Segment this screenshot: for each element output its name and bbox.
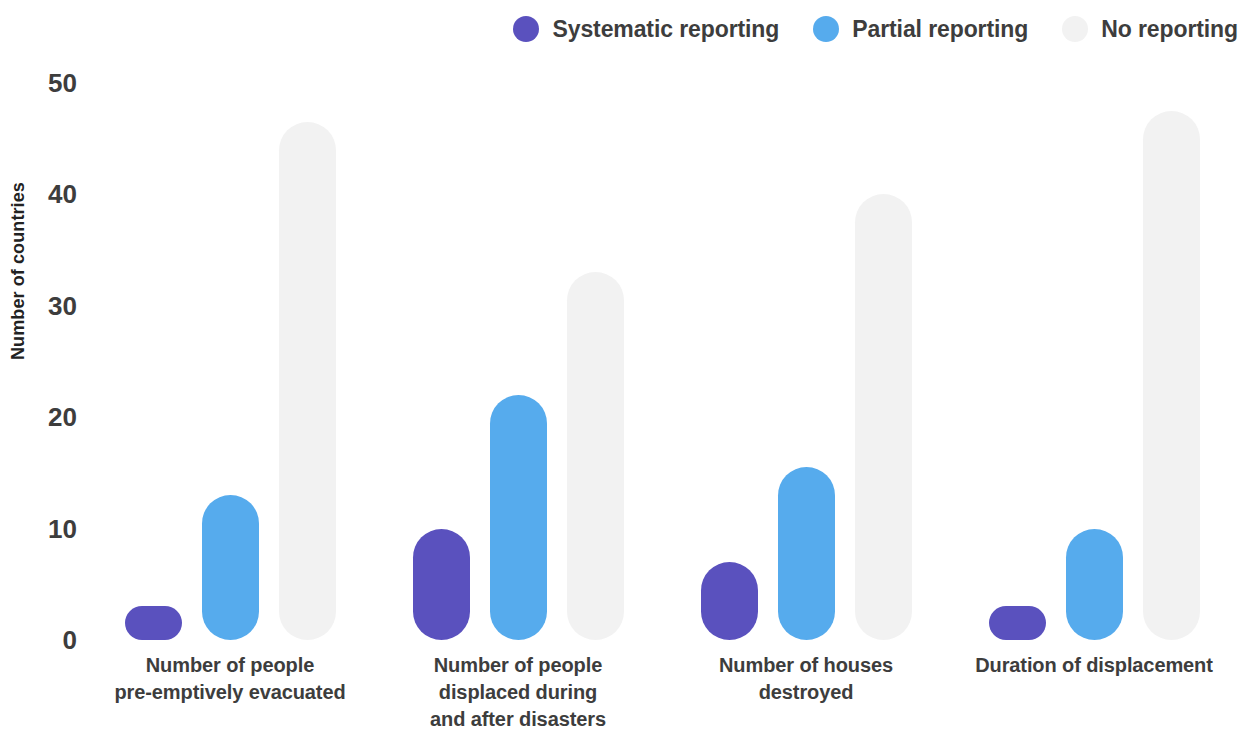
plot-area: 01020304050: [95, 83, 1235, 640]
legend-item-systematic-reporting[interactable]: Systematic reporting: [513, 16, 779, 43]
y-axis-title: Number of countries: [8, 182, 29, 360]
x-axis-category-label: Number of peoplepre-emptively evacuated: [80, 652, 380, 706]
y-axis-tick-label: 30: [48, 290, 77, 321]
y-axis-tick-label: 10: [48, 513, 77, 544]
bar-systematic[interactable]: [701, 562, 758, 640]
circle-swatch-icon: [1062, 16, 1088, 42]
legend-item-no-reporting[interactable]: No reporting: [1062, 16, 1238, 43]
x-axis-category-label: Duration of displacement: [944, 652, 1244, 679]
bar-systematic[interactable]: [413, 529, 470, 640]
bar-chart: Systematic reporting Partial reporting N…: [0, 0, 1244, 735]
y-axis-tick-label: 20: [48, 402, 77, 433]
legend-label: No reporting: [1101, 16, 1238, 43]
x-axis-category-line: displaced during: [368, 679, 668, 706]
legend-label: Systematic reporting: [552, 16, 779, 43]
y-axis-tick-label: 40: [48, 179, 77, 210]
x-axis-category-line: Number of people: [368, 652, 668, 679]
bar-group: [701, 83, 912, 640]
bar-partial[interactable]: [778, 467, 835, 640]
bar-partial[interactable]: [490, 395, 547, 640]
legend-item-partial-reporting[interactable]: Partial reporting: [813, 16, 1028, 43]
x-axis-category-line: destroyed: [656, 679, 956, 706]
bar-group: [989, 83, 1200, 640]
bar-none[interactable]: [279, 122, 336, 640]
bar-none[interactable]: [855, 194, 912, 640]
bar-group: [413, 83, 624, 640]
x-axis-category-label: Number of peopledisplaced duringand afte…: [368, 652, 668, 733]
y-axis-tick-label: 50: [48, 68, 77, 99]
bar-none[interactable]: [567, 272, 624, 640]
bar-group: [125, 83, 336, 640]
bar-none[interactable]: [1143, 111, 1200, 640]
x-axis-category-label: Number of housesdestroyed: [656, 652, 956, 706]
chart-legend: Systematic reporting Partial reporting N…: [0, 8, 1244, 50]
circle-swatch-icon: [813, 16, 839, 42]
x-axis-category-line: Number of people: [80, 652, 380, 679]
x-axis-category-line: Duration of displacement: [944, 652, 1244, 679]
x-axis-labels: Number of peoplepre-emptively evacuatedN…: [95, 652, 1235, 735]
y-axis-tick-label: 0: [63, 625, 77, 656]
bar-partial[interactable]: [202, 495, 259, 640]
bar-systematic[interactable]: [125, 606, 182, 640]
x-axis-category-line: Number of houses: [656, 652, 956, 679]
bar-systematic[interactable]: [989, 606, 1046, 640]
circle-swatch-icon: [513, 16, 539, 42]
x-axis-category-line: and after disasters: [368, 706, 668, 733]
bar-partial[interactable]: [1066, 529, 1123, 640]
legend-label: Partial reporting: [852, 16, 1028, 43]
x-axis-category-line: pre-emptively evacuated: [80, 679, 380, 706]
